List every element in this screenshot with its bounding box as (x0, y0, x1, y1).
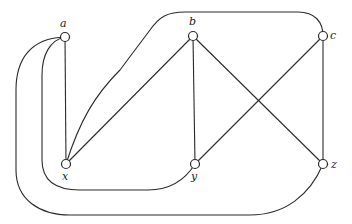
vertex-label-a: a (60, 17, 67, 30)
vertex-c (319, 32, 328, 41)
vertex-label-c: c (330, 29, 336, 42)
node-x: x (62, 160, 71, 184)
vertex-a (61, 33, 70, 42)
node-c: c (319, 29, 337, 42)
vertex-label-x: x (62, 170, 69, 183)
vertex-label-b: b (189, 15, 196, 28)
graph-diagram: a b c x y z (0, 0, 352, 224)
node-a: a (60, 17, 70, 42)
edge-b-y (193, 36, 195, 164)
vertex-label-y: y (190, 170, 198, 183)
node-b: b (189, 15, 198, 41)
vertex-label-z: z (330, 158, 337, 171)
vertex-y (191, 160, 200, 169)
vertex-b (189, 32, 198, 41)
edge-a-x (65, 37, 66, 164)
vertex-z (319, 160, 328, 169)
vertex-x (62, 160, 71, 169)
node-y: y (190, 160, 200, 184)
edge-b-x (66, 36, 193, 164)
